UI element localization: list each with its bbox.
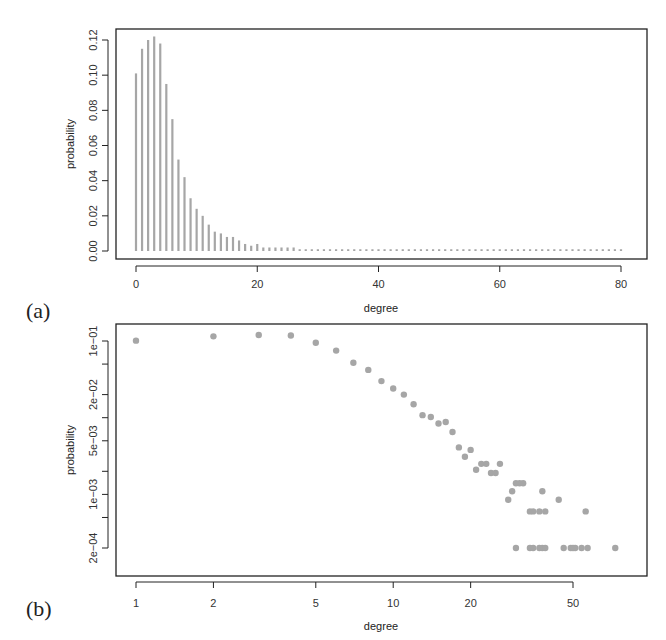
data-point: [530, 508, 536, 514]
y-tick-label: 0.12: [87, 29, 99, 50]
x-axis-title: degree: [364, 620, 398, 632]
data-point: [449, 429, 455, 435]
y-axis-title: probability: [64, 424, 76, 475]
degree-distribution-linear-chart: 020406080 0.000.020.040.060.080.100.12 d…: [64, 29, 647, 314]
data-point: [542, 545, 548, 551]
data-point: [256, 332, 262, 338]
data-point: [505, 497, 511, 503]
data-point: [513, 545, 519, 551]
x-tick-label: 5: [313, 597, 319, 609]
y-tick-label: 5e−03: [87, 425, 99, 456]
data-point: [288, 332, 294, 338]
x-tick-label: 10: [387, 597, 399, 609]
data-point: [473, 466, 479, 472]
data-point: [539, 488, 545, 494]
data-point: [584, 545, 590, 551]
data-point: [509, 488, 515, 494]
x-tick-label: 0: [133, 278, 139, 290]
y-tick-label: 0.04: [87, 170, 99, 191]
data-point: [443, 419, 449, 425]
data-point: [578, 545, 584, 551]
data-point: [530, 545, 536, 551]
data-point: [467, 447, 473, 453]
x-tick-label: 40: [372, 278, 384, 290]
x-axis: 020406080: [133, 266, 627, 290]
data-point: [462, 454, 468, 460]
data-point: [435, 420, 441, 426]
data-point: [133, 337, 139, 343]
y-axis-title: probability: [64, 118, 76, 169]
data-point: [428, 414, 434, 420]
y-tick-label: 2e−02: [87, 379, 99, 410]
x-tick-label: 60: [494, 278, 506, 290]
data-point: [410, 401, 416, 407]
y-tick-label: 1e−03: [87, 479, 99, 510]
x-tick-label: 20: [465, 597, 477, 609]
x-tick-label: 80: [615, 278, 627, 290]
y-axis: 0.000.020.040.060.080.100.12: [87, 29, 108, 261]
data-point: [492, 470, 498, 476]
plot-frame: [116, 324, 647, 576]
y-tick-label: 0.06: [87, 135, 99, 156]
y-axis: 1e−012e−025e−031e−032e−04: [87, 326, 108, 564]
y-tick-label: 0.10: [87, 64, 99, 85]
probability-points: [133, 332, 619, 551]
x-tick-label: 50: [567, 597, 579, 609]
data-point: [556, 497, 562, 503]
data-point: [582, 508, 588, 514]
data-point: [497, 461, 503, 467]
panel-label-b: (b): [26, 596, 52, 622]
y-tick-label: 0.08: [87, 100, 99, 121]
data-point: [483, 461, 489, 467]
data-point: [612, 545, 618, 551]
x-axis: 125102050: [133, 582, 579, 609]
y-tick-label: 0.00: [87, 240, 99, 261]
data-point: [210, 333, 216, 339]
data-point: [390, 385, 396, 391]
figure: 020406080 0.000.020.040.060.080.100.12 d…: [0, 0, 666, 640]
data-point: [572, 545, 578, 551]
data-point: [520, 480, 526, 486]
data-point: [313, 340, 319, 346]
data-point: [333, 347, 339, 353]
panel-label-a: (a): [26, 298, 50, 324]
x-tick-label: 1: [133, 597, 139, 609]
data-point: [350, 360, 356, 366]
x-axis-title: degree: [364, 302, 398, 314]
data-point: [560, 545, 566, 551]
degree-distribution-loglog-chart: 125102050 1e−012e−025e−031e−032e−04 degr…: [64, 324, 647, 632]
data-point: [365, 367, 371, 373]
x-tick-label: 2: [210, 597, 216, 609]
data-point: [401, 391, 407, 397]
data-point: [536, 508, 542, 514]
data-point: [542, 508, 548, 514]
y-tick-label: 2e−04: [87, 533, 99, 564]
y-tick-label: 0.02: [87, 205, 99, 226]
x-tick-label: 20: [251, 278, 263, 290]
data-point: [378, 378, 384, 384]
y-tick-label: 1e−01: [87, 326, 99, 357]
data-point: [419, 412, 425, 418]
data-point: [456, 444, 462, 450]
probability-bars: [136, 36, 621, 251]
